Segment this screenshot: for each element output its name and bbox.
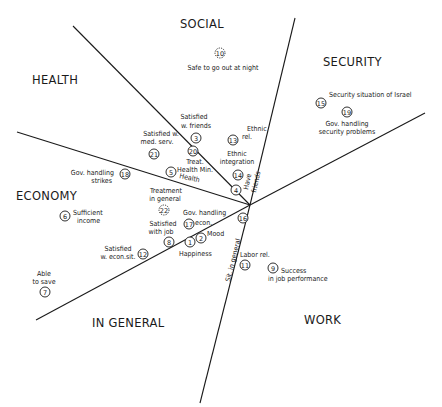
item-number: 19: [343, 109, 351, 117]
item-label-line1: Sufficient: [73, 209, 103, 217]
item-15: 15 Security situation of Israel: [316, 91, 412, 108]
item-label-line2: integration: [220, 158, 255, 166]
region-label-in-general: IN GENERAL: [92, 316, 165, 330]
facet-diagram: SOCIAL SECURITY HEALTH ECONOMY IN GENERA…: [0, 0, 442, 407]
region-label-health: HEALTH: [32, 73, 78, 87]
item-label: Security situation of Israel: [329, 91, 412, 99]
item-label-line2: in job performance: [268, 275, 328, 283]
item-number: 4: [234, 187, 238, 195]
item-label-line1: Treatment: [149, 187, 182, 195]
item-7: Able to save 7: [32, 270, 55, 297]
item-number: 5: [169, 169, 173, 177]
item-label: Labor rel.: [240, 251, 270, 259]
item-number: 10: [216, 50, 224, 58]
item-label-line2: income: [77, 217, 100, 225]
region-label-economy: ECONOMY: [16, 189, 78, 203]
item-11: Labor rel. 11: [240, 251, 270, 270]
item-12: Satisfied w. econ.sit. 12: [100, 245, 148, 261]
item-label-line2: with job: [149, 228, 174, 236]
item-19: 19 Gov. handling security problems: [319, 107, 375, 136]
item-number: 17: [185, 221, 193, 229]
item-17: Gov. handling 17 econ.: [183, 209, 226, 229]
item-label-line2: w. econ.sit.: [100, 253, 135, 261]
item-label-line2: in general: [149, 195, 181, 203]
item-label-line1: Satisfied w.: [143, 130, 179, 138]
item-label-line1: Gov. handling: [183, 209, 226, 217]
region-label-social: SOCIAL: [180, 17, 224, 31]
region-label-security: SECURITY: [323, 55, 383, 69]
item-16: 16 Sit. in general: [224, 213, 248, 282]
item-label-line1: Gov. handling: [325, 120, 368, 128]
item-label-line2: rel.: [242, 133, 252, 141]
item-9: 9 Success in job performance: [268, 263, 328, 283]
item-label-line2: strikes: [91, 177, 112, 185]
item-label-line1: Gov. handling: [71, 169, 114, 177]
item-label-line1: Ethnic: [247, 125, 267, 133]
item-number: 12: [139, 251, 147, 259]
item-label-line1: Satisfied: [180, 113, 207, 121]
item-number: 1: [188, 239, 192, 247]
item-number: 8: [167, 239, 171, 247]
item-label-line2: econ.: [195, 219, 212, 227]
item-8: Satisfied with job 8: [149, 220, 177, 247]
item-number: 21: [150, 151, 158, 159]
item-6: 6 Sufficient income: [60, 209, 103, 225]
item-10: 10 Safe to go out at night: [188, 48, 259, 72]
item-number: 14: [234, 172, 242, 180]
item-number: 6: [63, 213, 67, 221]
item-number: 16: [239, 215, 247, 223]
item-number: 20: [189, 148, 197, 156]
item-label-line1: Satisfied: [104, 245, 131, 253]
item-18: Gov. handling strikes 18: [71, 169, 130, 185]
item-label-line2: w. friends: [181, 122, 211, 130]
item-number: 7: [43, 289, 47, 297]
item-number: 9: [271, 265, 275, 273]
item-label-line1: Ethnic: [227, 150, 247, 158]
item-number: 2: [199, 235, 203, 243]
item-20: 20 Treat. Health Min.: [177, 146, 213, 174]
sit-in-general-label: Sit. in general: [224, 238, 242, 283]
item-number: 18: [121, 171, 129, 179]
item-label-line2: med. serv.: [141, 138, 174, 146]
item-13: Ethnic 13 rel.: [228, 125, 267, 145]
item-label-line1: Satisfied: [149, 220, 176, 228]
region-label-work: WORK: [304, 313, 341, 327]
item-label-line1: Success: [281, 267, 306, 275]
item-label-line1: Able: [37, 270, 51, 278]
item-number: 22: [160, 207, 168, 215]
item-label: Mood: [207, 230, 224, 238]
item-label-line1: Treat.: [185, 158, 203, 166]
item-21: Satisfied w. med. serv. 21: [141, 130, 179, 159]
item-number: 3: [194, 135, 198, 143]
item-label-line2: to save: [32, 278, 55, 286]
item-number: 15: [317, 100, 325, 108]
item-label-line2: friends: [250, 171, 262, 194]
item-22: Treatment in general 22: [149, 187, 182, 215]
item-number: 11: [241, 262, 249, 270]
divider-economy-general: [36, 205, 250, 320]
item-label: Happiness: [179, 250, 212, 258]
item-label-line2: security problems: [319, 128, 375, 136]
item-number: 13: [229, 137, 237, 145]
item-label: Safe to go out at night: [188, 64, 259, 72]
